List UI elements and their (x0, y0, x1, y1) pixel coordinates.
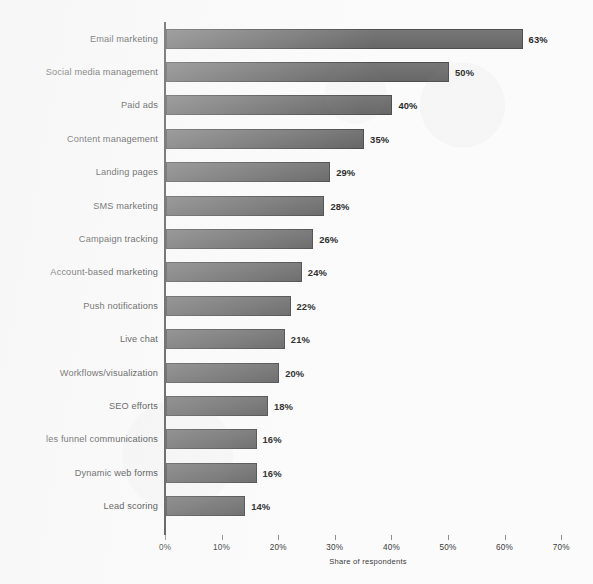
bar-row: Lead scoring14% (0, 489, 593, 522)
bar-row: SMS marketing28% (0, 189, 593, 222)
bar-rows-container: Email marketing63%Social media managemen… (0, 22, 593, 523)
x-axis-tick-label: 60% (496, 543, 513, 552)
x-axis-tick (165, 535, 166, 540)
x-axis-tick (561, 535, 562, 540)
x-axis-tick (222, 535, 223, 540)
category-label: Workflows/visualization (60, 368, 158, 378)
bar-row: Workflows/visualization20% (0, 356, 593, 389)
bar-value-label: 63% (529, 33, 548, 44)
bar-value-label: 22% (297, 300, 316, 311)
bar-value-label: 18% (274, 400, 293, 411)
category-label: Campaign tracking (79, 234, 158, 244)
bar (166, 95, 392, 115)
category-label: Live chat (120, 334, 158, 344)
bar-value-label: 21% (291, 334, 310, 345)
x-axis-tick-label: 50% (440, 543, 457, 552)
x-axis: Share of respondents 0%10%20%30%40%50%60… (0, 535, 593, 584)
bar-row: Campaign tracking26% (0, 222, 593, 255)
category-label: Paid ads (121, 100, 158, 110)
bar-row: Social media management50% (0, 55, 593, 88)
bar (166, 29, 523, 49)
bar-row: Live chat21% (0, 323, 593, 356)
bar-row: SEO efforts18% (0, 389, 593, 422)
x-axis-title: Share of respondents (165, 557, 571, 566)
bar (166, 329, 285, 349)
bar (166, 296, 291, 316)
category-label: Landing pages (96, 167, 158, 177)
bar (166, 429, 257, 449)
category-label: Email marketing (90, 34, 158, 44)
x-axis-tick (448, 535, 449, 540)
x-axis-tick-label: 30% (326, 543, 343, 552)
bar (166, 396, 268, 416)
bar-value-label: 26% (319, 234, 338, 245)
category-label: Lead scoring (104, 501, 158, 511)
bar-value-label: 20% (285, 367, 304, 378)
category-label: Push notifications (83, 301, 158, 311)
bar-row: Account-based marketing24% (0, 256, 593, 289)
bar (166, 196, 324, 216)
x-axis-tick (505, 535, 506, 540)
bar-row: Email marketing63% (0, 22, 593, 55)
x-axis-tick-label: 10% (213, 543, 230, 552)
bar-row: Landing pages29% (0, 156, 593, 189)
category-label: SMS marketing (93, 201, 158, 211)
x-axis-tick-label: 0% (159, 543, 171, 552)
bar-value-label: 28% (330, 200, 349, 211)
bar-value-label: 50% (455, 67, 474, 78)
x-axis-tick (391, 535, 392, 540)
bar-value-label: 24% (308, 267, 327, 278)
category-label: Content management (67, 134, 158, 144)
bar-value-label: 40% (398, 100, 417, 111)
bar-row: Content management35% (0, 122, 593, 155)
bar (166, 62, 449, 82)
category-label: Dynamic web forms (75, 468, 158, 478)
bar-row: Dynamic web forms16% (0, 456, 593, 489)
bar-value-label: 16% (263, 434, 282, 445)
bar (166, 229, 313, 249)
bar (166, 463, 257, 483)
bar (166, 162, 330, 182)
bar-row: Paid ads40% (0, 89, 593, 122)
bar-value-label: 14% (251, 501, 270, 512)
bar (166, 363, 279, 383)
x-axis-tick (335, 535, 336, 540)
x-axis-tick-label: 20% (270, 543, 287, 552)
bar (166, 262, 302, 282)
bar-value-label: 35% (370, 133, 389, 144)
category-label: les funnel communications (46, 434, 158, 444)
x-axis-tick-label: 40% (383, 543, 400, 552)
category-label: Account-based marketing (50, 267, 158, 277)
bar-value-label: 29% (336, 167, 355, 178)
bar (166, 496, 245, 516)
x-axis-tick-label: 70% (553, 543, 570, 552)
bar-row: les funnel communications16% (0, 423, 593, 456)
category-label: Social media management (46, 67, 158, 77)
horizontal-bar-chart: Email marketing63%Social media managemen… (0, 0, 593, 584)
x-axis-tick (278, 535, 279, 540)
category-label: SEO efforts (109, 401, 158, 411)
bar-value-label: 16% (263, 467, 282, 478)
bar (166, 129, 364, 149)
bar-row: Push notifications22% (0, 289, 593, 322)
